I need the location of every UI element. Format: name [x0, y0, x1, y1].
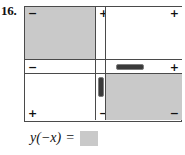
- sign-glyph-plus: +: [170, 9, 179, 18]
- grid-cell-top-left[interactable]: −: [25, 7, 95, 59]
- grid-cell-bottom-left[interactable]: +: [25, 74, 95, 120]
- problem-number: 16.: [1, 3, 17, 19]
- grid-cell-top-right[interactable]: +: [106, 7, 182, 59]
- vertical-strip-bottom[interactable]: −: [96, 74, 105, 120]
- answer-line: y(−x) =: [30, 129, 98, 147]
- equals-sign: =: [66, 129, 74, 147]
- horizontal-strip-right[interactable]: +: [106, 60, 182, 73]
- vertical-strip-top[interactable]: +: [96, 7, 105, 59]
- strip-intersection: [96, 60, 105, 73]
- sign-glyph-plus: +: [170, 62, 179, 71]
- sign-glyph-minus: −: [99, 109, 105, 118]
- grid-cell-bottom-right[interactable]: −: [106, 74, 182, 120]
- sign-glyph-minus: −: [28, 62, 37, 71]
- horizontal-slider-thumb[interactable]: [116, 64, 144, 70]
- sign-glyph-minus: −: [170, 109, 179, 118]
- sign-glyph-plus: +: [28, 109, 37, 118]
- sign-glyph-minus: −: [28, 9, 37, 18]
- answer-input-box[interactable]: [80, 131, 98, 146]
- horizontal-strip-left[interactable]: −: [25, 60, 95, 73]
- sign-glyph-plus: +: [99, 9, 105, 18]
- sign-chart-grid[interactable]: − + + − + + − −: [24, 6, 182, 122]
- answer-expression: y(−x): [30, 129, 61, 147]
- vertical-slider-thumb[interactable]: [98, 77, 104, 97]
